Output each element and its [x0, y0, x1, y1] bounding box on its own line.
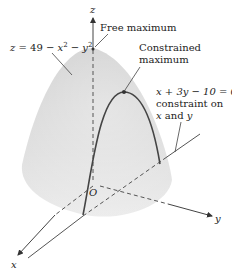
x-axis — [18, 215, 55, 255]
origin-label: O — [89, 187, 97, 198]
constraint-line-back — [164, 134, 200, 159]
leader-free-maximum — [95, 34, 108, 47]
free-maximum-label: Free maximum — [100, 22, 177, 33]
y-axis — [168, 204, 212, 216]
z-axis-label: z — [89, 4, 96, 15]
eq-minus: − — [68, 42, 83, 53]
paraboloid-diagram: z Free maximum z = 49 − x2 − y2 Constrai… — [0, 0, 232, 277]
constraint-label-3: x and y — [156, 110, 193, 121]
constrained-maximum-point — [122, 90, 126, 94]
constrained-maximum-label-1: Constrained — [139, 42, 202, 53]
x-axis-label: x — [11, 259, 17, 270]
constraint-and: and — [162, 110, 187, 121]
surface-equation-label: z = 49 − x2 − y2 — [9, 41, 92, 53]
constraint-line-front — [28, 216, 83, 258]
eq-equals: = 49 − — [15, 42, 57, 53]
constraint-y: y — [186, 110, 193, 121]
eq-y-exp: 2 — [88, 41, 92, 49]
constraint-label-2: constraint on — [156, 98, 224, 109]
constrained-maximum-label-2: maximum — [139, 54, 189, 65]
constraint-equation-label: x + 3y − 10 = 0 — [156, 86, 232, 97]
y-axis-label: y — [214, 213, 221, 224]
